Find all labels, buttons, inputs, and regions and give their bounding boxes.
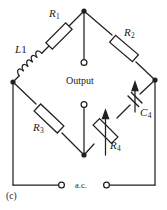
bridge-circuit-diagram	[0, 0, 167, 210]
label-c4-name: C	[140, 106, 147, 118]
resistor-r1	[46, 23, 72, 49]
ac-terminal-left[interactable]	[59, 182, 65, 188]
label-r1-sub: 1	[56, 12, 60, 21]
label-r4-name: R	[110, 139, 117, 151]
label-c4: C4	[140, 107, 151, 119]
c4-variable-arrow	[132, 82, 138, 112]
label-l1: L1	[15, 44, 27, 55]
wire-c4-to-r4	[117, 105, 130, 118]
output-terminal-top[interactable]	[81, 60, 87, 66]
ac-terminal-right[interactable]	[104, 182, 110, 188]
label-r3: R3	[33, 122, 44, 134]
node-top-dot	[81, 8, 86, 13]
label-c4-sub: 4	[148, 111, 152, 120]
label-l1-sub: 1	[21, 43, 27, 55]
wire-r2-to-right	[136, 62, 155, 80]
wire-right-to-c4	[140, 80, 155, 94]
wire-top-to-r1	[68, 11, 84, 27]
node-bottom-dot	[81, 152, 86, 157]
wire-top-to-r2	[84, 11, 112, 35]
label-r2: R2	[124, 27, 135, 39]
wire-left-to-r3	[13, 82, 36, 104]
circuit-figure: R1 R2 R3 R4 C4 L1 Output a.c. (c)	[0, 0, 167, 210]
node-right-dot	[152, 77, 157, 82]
wire-r3-to-bottom	[62, 133, 84, 155]
label-r2-sub: 2	[131, 31, 135, 40]
label-r1: R1	[49, 8, 60, 20]
label-r1-name: R	[49, 7, 56, 19]
resistor-r1-body	[46, 23, 72, 49]
label-r4: R4	[110, 140, 121, 152]
label-r2-name: R	[124, 26, 131, 38]
label-r4-sub: 4	[117, 144, 121, 153]
output-terminal-bottom[interactable]	[81, 102, 87, 108]
panel-label: (c)	[6, 192, 17, 202]
label-ac-source: a.c.	[75, 181, 87, 190]
label-r3-name: R	[33, 121, 40, 133]
label-r3-sub: 3	[40, 126, 44, 135]
node-left-dot	[10, 79, 15, 84]
label-output: Output	[66, 76, 94, 86]
